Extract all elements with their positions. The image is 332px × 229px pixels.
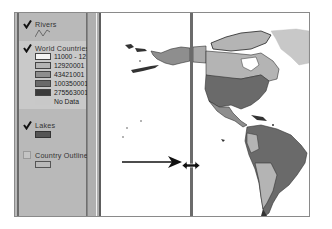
class-label: 12920001 (54, 62, 84, 69)
layer-name: Country Outlines (35, 151, 92, 160)
toc-splitter[interactable] (87, 13, 101, 216)
map-view[interactable] (101, 13, 309, 216)
class-swatch (35, 89, 51, 96)
river-line-symbol-icon (35, 29, 51, 38)
class-swatch (35, 62, 51, 69)
class-label: 275563001 (54, 89, 88, 96)
resize-horizontal-cursor-icon (182, 156, 200, 174)
swipe-split-line[interactable] (190, 13, 193, 216)
checkbox-rivers[interactable] (23, 20, 31, 28)
toc-inner: Rivers World Countries 11000 - 12 129200… (17, 13, 84, 216)
class-swatch (35, 98, 51, 105)
class-label: 11000 - 12 (54, 53, 86, 60)
map-canvas-icon (101, 13, 309, 216)
lakes-fill-swatch (35, 131, 51, 138)
checkbox-country-outlines[interactable] (23, 151, 31, 159)
layer-name: Lakes (35, 121, 55, 130)
checkbox-world-countries[interactable] (23, 44, 31, 52)
splitter-highlight (96, 13, 97, 216)
layer-name: World Countries (35, 44, 89, 53)
class-swatch (35, 71, 51, 78)
outline-swatch (35, 161, 51, 168)
class-label: No Data (54, 98, 79, 105)
class-label: 100350001 (54, 80, 88, 87)
layer-name: Rivers (35, 20, 57, 29)
class-swatch (35, 80, 51, 87)
class-swatch (35, 53, 51, 60)
annotation-arrow-icon (122, 154, 182, 172)
class-label: 43421001 (54, 71, 84, 78)
table-of-contents: Rivers World Countries 11000 - 12 129200… (15, 13, 87, 216)
checkbox-lakes[interactable] (23, 121, 31, 129)
